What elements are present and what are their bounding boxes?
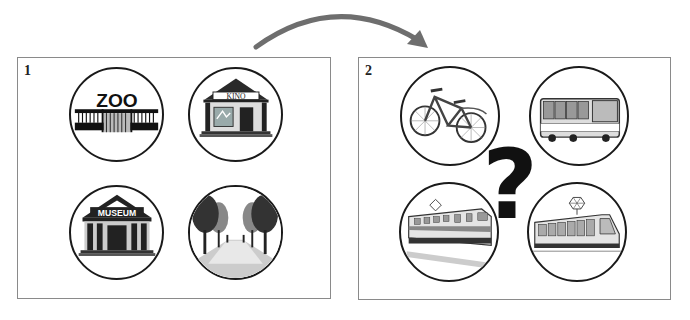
panel-2-label: 2 [365, 63, 372, 79]
zoo-icon: ZOO [69, 67, 164, 162]
panel-1-places: 1 [17, 57, 331, 299]
museum-icon: MUSEUM [69, 185, 164, 280]
train-icon [399, 182, 499, 282]
park-icon [188, 185, 283, 280]
museum-sign: MUSEUM [98, 208, 136, 218]
cinema-icon: KINO [188, 67, 283, 162]
bus-icon [529, 66, 629, 166]
curved-arrow-icon [0, 0, 690, 60]
cinema-sign: KINO [226, 92, 246, 101]
zoo-sign: ZOO [96, 90, 138, 111]
tram-icon [527, 182, 627, 282]
panel-1-label: 1 [24, 63, 31, 79]
